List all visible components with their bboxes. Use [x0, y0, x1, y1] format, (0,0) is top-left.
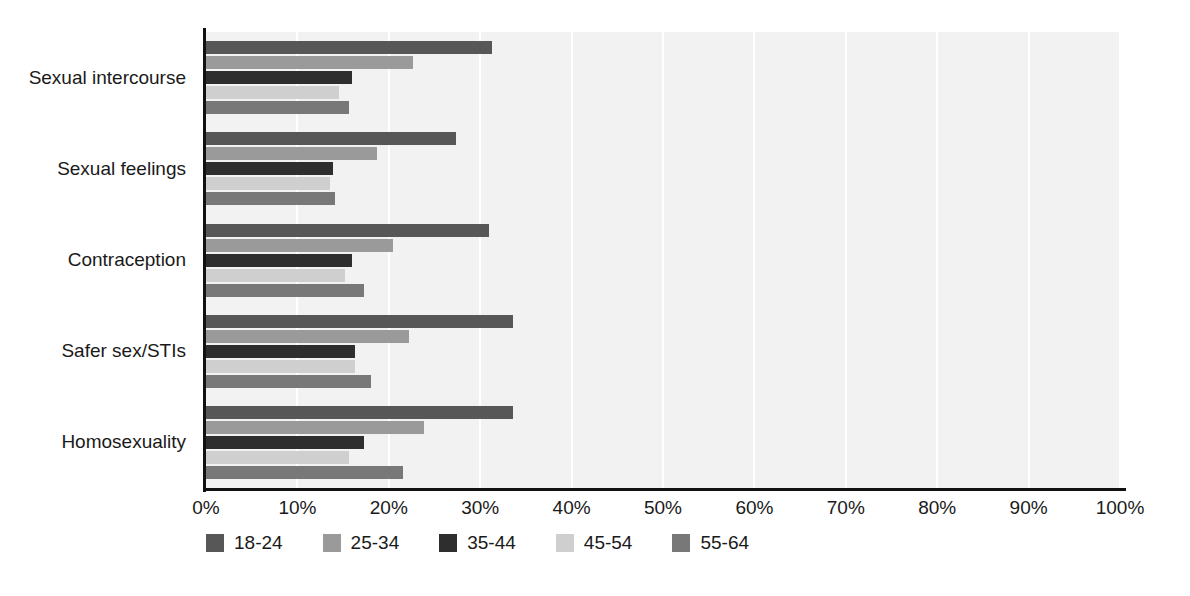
x-tick-label: 40%: [553, 496, 591, 520]
bar: [206, 224, 489, 237]
category-axis: Sexual intercourseSexual feelingsContrac…: [0, 32, 196, 488]
gridline: [753, 32, 755, 488]
bar: [206, 466, 403, 479]
bar: [206, 360, 355, 373]
bar-chart: Sexual intercourseSexual feelingsContrac…: [0, 0, 1190, 596]
legend-swatch-icon: [206, 534, 224, 552]
gridline: [479, 32, 481, 488]
bar: [206, 132, 456, 145]
bar: [206, 421, 424, 434]
legend-swatch-icon: [672, 534, 690, 552]
y-axis-line: [203, 28, 206, 492]
gridline: [1028, 32, 1030, 488]
x-tick-label: 10%: [278, 496, 316, 520]
bar: [206, 254, 352, 267]
bar: [206, 71, 352, 84]
x-tick-label: 100%: [1096, 496, 1145, 520]
x-tick-label: 70%: [827, 496, 865, 520]
category-label: Sexual feelings: [0, 158, 186, 180]
category-label: Safer sex/STIs: [0, 340, 186, 362]
x-tick-label: 30%: [461, 496, 499, 520]
legend-label: 45-54: [584, 533, 633, 553]
bar: [206, 330, 409, 343]
bar: [206, 345, 355, 358]
category-label: Homosexuality: [0, 431, 186, 453]
bar: [206, 315, 513, 328]
legend-item[interactable]: 35-44: [439, 533, 516, 553]
legend-item[interactable]: 18-24: [206, 533, 283, 553]
x-tick-label: 50%: [644, 496, 682, 520]
gridline: [1119, 32, 1121, 488]
bar: [206, 406, 513, 419]
legend-label: 55-64: [700, 533, 749, 553]
bar: [206, 41, 492, 54]
bar: [206, 147, 377, 160]
legend-label: 18-24: [234, 533, 283, 553]
chart-legend: 18-2425-3435-4445-5455-64: [206, 530, 789, 556]
gridline: [571, 32, 573, 488]
category-label: Sexual intercourse: [0, 67, 186, 89]
gridline: [662, 32, 664, 488]
legend-swatch-icon: [439, 534, 457, 552]
legend-item[interactable]: 25-34: [323, 533, 400, 553]
gridline: [845, 32, 847, 488]
bar: [206, 192, 335, 205]
x-axis-tick-labels: 0%10%20%30%40%50%60%70%80%90%100%: [0, 496, 1190, 524]
gridline: [936, 32, 938, 488]
bar: [206, 177, 330, 190]
legend-label: 25-34: [351, 533, 400, 553]
bar: [206, 284, 364, 297]
bar: [206, 162, 333, 175]
legend-item[interactable]: 45-54: [556, 533, 633, 553]
bar: [206, 451, 349, 464]
x-axis-line: [206, 488, 1126, 491]
legend-label: 35-44: [467, 533, 516, 553]
legend-item[interactable]: 55-64: [672, 533, 749, 553]
bar: [206, 269, 345, 282]
bar: [206, 56, 413, 69]
bar: [206, 239, 393, 252]
x-tick-label: 60%: [735, 496, 773, 520]
x-tick-label: 20%: [370, 496, 408, 520]
gridline: [388, 32, 390, 488]
x-tick-label: 80%: [918, 496, 956, 520]
legend-swatch-icon: [556, 534, 574, 552]
plot-area: [206, 32, 1120, 488]
category-label: Contraception: [0, 249, 186, 271]
x-tick-label: 0%: [192, 496, 219, 520]
bar: [206, 436, 364, 449]
legend-swatch-icon: [323, 534, 341, 552]
bar: [206, 375, 371, 388]
bar: [206, 86, 339, 99]
bar: [206, 101, 349, 114]
x-tick-label: 90%: [1010, 496, 1048, 520]
